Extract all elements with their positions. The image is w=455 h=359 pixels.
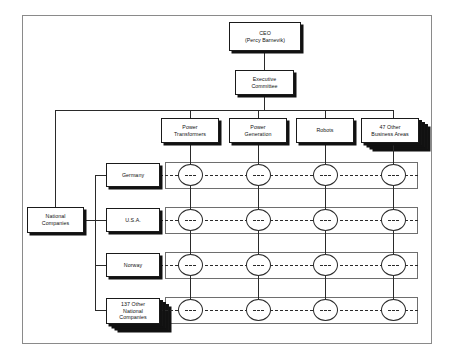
matrix-node-symbol-1-2 (320, 220, 331, 221)
connector-exec-bus (264, 95, 265, 110)
column-link-2-seg-1 (325, 186, 326, 209)
business-area-box-0: Power Transformers (161, 118, 219, 143)
national-company-label-1: U.S.A. (123, 217, 143, 224)
matrix-node-3-0 (178, 299, 203, 321)
national-company-label-0: Germany (120, 172, 146, 179)
matrix-node-symbol-2-0 (185, 265, 196, 266)
column-link-2-seg-0 (325, 143, 326, 164)
column-link-2-seg-2 (325, 231, 326, 254)
matrix-node-symbol-1-3 (388, 220, 399, 221)
matrix-node-2-2 (313, 254, 338, 276)
matrix-node-symbol-0-1 (253, 175, 264, 176)
business-area-label-1: Power Generation (243, 124, 274, 137)
column-link-0-seg-1 (190, 186, 191, 209)
matrix-node-symbol-2-1 (253, 265, 264, 266)
connector-spine-country-1 (95, 220, 106, 221)
national-company-label-2: Norway (122, 262, 144, 269)
column-link-3-seg-3 (393, 276, 394, 299)
national-company-box-1: U.S.A. (106, 208, 160, 232)
business-area-label-3: 47 Other Business Areas (369, 124, 410, 137)
column-link-0-seg-0 (190, 143, 191, 164)
matrix-node-0-0 (178, 164, 203, 186)
connector-spine-country-0 (95, 175, 106, 176)
matrix-node-0-3 (381, 164, 406, 186)
matrix-node-2-0 (178, 254, 203, 276)
ceo-label: CEO(Percy Barnevik) (243, 30, 287, 43)
connector-bus-ba-3 (393, 110, 394, 118)
matrix-node-symbol-0-0 (185, 175, 196, 176)
connector-bus-national (55, 110, 56, 207)
matrix-node-3-3 (381, 299, 406, 321)
matrix-node-3-2 (313, 299, 338, 321)
matrix-node-symbol-1-0 (185, 220, 196, 221)
ceo-title: CEO (259, 30, 271, 36)
column-link-3-seg-0 (393, 143, 394, 164)
connector-ceo-exec (264, 51, 265, 70)
column-link-0-seg-3 (190, 276, 191, 299)
column-link-1-seg-3 (258, 276, 259, 299)
national-company-label-3: 137 Other National Companies (117, 301, 148, 321)
connector-bus-ba-1 (258, 110, 259, 118)
matrix-node-symbol-2-3 (388, 265, 399, 266)
business-area-box-2: Robots (296, 118, 354, 143)
national-company-box-3: 137 Other National Companies (106, 298, 160, 324)
connector-bus-ba-0 (190, 110, 191, 118)
column-link-1-seg-2 (258, 231, 259, 254)
matrix-node-symbol-3-1 (253, 310, 264, 311)
business-area-label-0: Power Transformers (172, 124, 208, 137)
matrix-node-2-3 (381, 254, 406, 276)
matrix-node-0-1 (246, 164, 271, 186)
column-link-2-seg-3 (325, 276, 326, 299)
column-link-3-seg-2 (393, 231, 394, 254)
column-link-1-seg-1 (258, 186, 259, 209)
business-area-box-1: Power Generation (229, 118, 287, 143)
national-companies-box: National Companies (27, 207, 84, 233)
matrix-node-symbol-0-3 (388, 175, 399, 176)
matrix-node-1-1 (246, 209, 271, 231)
top-distribution-bus (55, 110, 394, 111)
national-spine (95, 175, 96, 310)
column-link-0-seg-2 (190, 231, 191, 254)
business-area-label-2: Robots (314, 127, 335, 134)
matrix-node-symbol-3-3 (388, 310, 399, 311)
column-link-1-seg-0 (258, 143, 259, 164)
matrix-node-1-0 (178, 209, 203, 231)
national-companies-label: National Companies (40, 213, 71, 226)
matrix-node-symbol-2-2 (320, 265, 331, 266)
executive-committee-box: Executive Committee (235, 70, 294, 95)
connector-national-spine (84, 220, 95, 221)
ceo-name: (Percy Barnevik) (245, 37, 285, 43)
org-chart-diagram: CEO(Percy Barnevik) Executive Committee … (0, 0, 455, 359)
national-company-box-2: Norway (106, 253, 160, 277)
executive-committee-label: Executive Committee (249, 76, 279, 89)
matrix-node-symbol-3-0 (185, 310, 196, 311)
matrix-node-2-1 (246, 254, 271, 276)
connector-spine-country-3 (95, 310, 106, 311)
matrix-node-symbol-3-2 (320, 310, 331, 311)
column-link-3-seg-1 (393, 186, 394, 209)
national-company-box-0: Germany (106, 163, 160, 187)
matrix-node-symbol-1-1 (253, 220, 264, 221)
matrix-node-1-3 (381, 209, 406, 231)
matrix-node-symbol-0-2 (320, 175, 331, 176)
connector-spine-country-2 (95, 265, 106, 266)
ceo-box: CEO(Percy Barnevik) (229, 22, 301, 51)
matrix-node-1-2 (313, 209, 338, 231)
matrix-node-0-2 (313, 164, 338, 186)
business-area-box-3: 47 Other Business Areas (361, 118, 419, 143)
connector-bus-ba-2 (325, 110, 326, 118)
matrix-node-3-1 (246, 299, 271, 321)
